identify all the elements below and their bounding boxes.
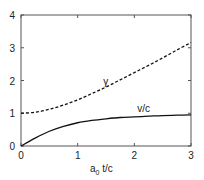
axis-ticks: 012301234 [9, 10, 194, 161]
series-line-velocity [21, 115, 191, 146]
x-axis-label: a0 t/c [90, 163, 113, 176]
y-tick-label: 1 [9, 108, 15, 119]
chart: 012301234 γv/c a0 t/c [0, 0, 204, 180]
x-tick-label: 0 [18, 150, 24, 161]
y-tick-label: 3 [9, 43, 15, 54]
y-tick-label: 4 [9, 10, 15, 21]
x-tick-label: 3 [188, 150, 194, 161]
y-tick-label: 2 [9, 76, 15, 87]
series-lines [21, 43, 191, 146]
y-tick-label: 0 [9, 141, 15, 152]
annotation-label: γ [103, 76, 108, 87]
x-tick-label: 1 [75, 150, 81, 161]
x-tick-label: 2 [132, 150, 138, 161]
annotation-label: v/c [137, 103, 150, 114]
annotations: γv/c [103, 76, 150, 113]
